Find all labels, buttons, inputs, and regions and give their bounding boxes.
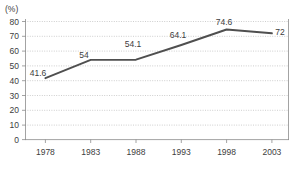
xtick-label-1978: 1978 xyxy=(36,147,55,157)
ytick-label-50: 50 xyxy=(10,61,20,71)
ytick-label-70: 70 xyxy=(10,31,20,41)
y-axis-tick-labels: 80 70 60 50 40 30 20 10 0 xyxy=(10,17,20,145)
x-axis-tick-labels: 1978 1983 1988 1993 1998 2003 xyxy=(36,147,282,157)
data-label-2003: 72 xyxy=(275,27,285,37)
cropped-footer-text xyxy=(3,165,121,170)
data-label-1998: 74.6 xyxy=(216,17,233,27)
y-axis-unit-label: (%) xyxy=(5,4,18,14)
xtick-label-2003: 2003 xyxy=(262,147,281,157)
xtick-label-1993: 1993 xyxy=(172,147,191,157)
data-label-1993: 64.1 xyxy=(170,30,187,40)
ytick-label-80: 80 xyxy=(10,17,20,27)
xtick-label-1988: 1988 xyxy=(127,147,146,157)
line-chart: (%) xyxy=(0,0,297,170)
data-label-1988: 54.1 xyxy=(125,39,142,49)
ytick-label-10: 10 xyxy=(10,120,20,130)
ytick-label-30: 30 xyxy=(10,91,20,101)
ytick-label-0: 0 xyxy=(14,135,19,145)
ytick-label-20: 20 xyxy=(10,105,20,115)
xtick-label-1983: 1983 xyxy=(81,147,100,157)
y-axis-ticks xyxy=(22,22,26,140)
gridlines xyxy=(25,22,289,126)
data-label-1983: 54 xyxy=(79,50,89,60)
chart-canvas: (%) xyxy=(0,0,297,170)
data-label-1978: 41.6 xyxy=(30,68,47,78)
x-axis-ticks xyxy=(45,140,272,143)
xtick-label-1998: 1998 xyxy=(217,147,236,157)
ytick-label-60: 60 xyxy=(10,46,20,56)
ytick-label-40: 40 xyxy=(10,76,20,86)
axis-frame xyxy=(25,19,289,140)
